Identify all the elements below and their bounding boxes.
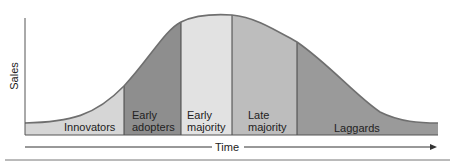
label-late-majority-line1: Late [248, 109, 269, 121]
segment-laggards [297, 0, 438, 135]
label-early-adopters-line1: Early [132, 109, 158, 121]
adoption-curve-diagram: Sales Innovators Early adopters Early ma… [0, 0, 454, 165]
segment-innovators [25, 0, 124, 135]
y-axis-label: Sales [8, 62, 20, 90]
label-laggards: Laggards [334, 122, 380, 134]
label-late-majority-line2: majority [248, 121, 287, 133]
x-axis-label: Time [215, 141, 239, 153]
arrow-right-icon [430, 144, 437, 150]
label-early-adopters-line2: adopters [132, 121, 175, 133]
label-early-majority-line1: Early [187, 109, 213, 121]
label-innovators: Innovators [64, 121, 116, 133]
label-early-majority-line2: majority [187, 121, 226, 133]
curve-fill-group [25, 0, 438, 135]
